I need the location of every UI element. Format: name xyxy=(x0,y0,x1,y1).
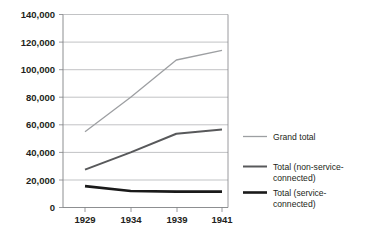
series-total-service-connected xyxy=(85,186,222,192)
legend-label-total-non-service-connected-line2: connected) xyxy=(273,173,316,183)
chart-svg: 140,000 120,000 100,000 80,000 60,000 40… xyxy=(0,0,368,235)
y-tick-label-60000: 60,000 xyxy=(26,119,55,130)
series-total-non-service-connected xyxy=(85,130,222,170)
chart-legend: Grand total Total (non-service- connecte… xyxy=(243,132,344,209)
x-tick-marks xyxy=(85,208,222,213)
series-grand-total xyxy=(85,50,222,131)
legend-label-total-non-service-connected-line1: Total (non-service- xyxy=(273,162,344,172)
series-group xyxy=(85,50,222,191)
x-tick-label-1939: 1939 xyxy=(166,214,187,225)
y-tick-labels: 140,000 120,000 100,000 80,000 60,000 40… xyxy=(21,9,55,213)
y-tick-marks xyxy=(59,15,63,208)
y-tick-label-80000: 80,000 xyxy=(26,92,55,103)
y-tick-label-140000: 140,000 xyxy=(21,9,55,20)
x-tick-label-1941: 1941 xyxy=(211,214,233,225)
x-tick-label-1934: 1934 xyxy=(120,214,142,225)
y-tick-label-120000: 120,000 xyxy=(21,37,55,48)
line-chart: 140,000 120,000 100,000 80,000 60,000 40… xyxy=(0,0,368,235)
x-tick-labels: 1929 1934 1939 1941 xyxy=(74,214,233,225)
x-tick-label-1929: 1929 xyxy=(74,214,95,225)
y-tick-label-100000: 100,000 xyxy=(21,64,55,75)
y-tick-label-40000: 40,000 xyxy=(26,147,55,158)
y-gridlines xyxy=(63,15,228,181)
y-tick-label-20000: 20,000 xyxy=(26,175,55,186)
y-tick-label-0: 0 xyxy=(50,202,55,213)
legend-label-total-service-connected-line1: Total (service- xyxy=(273,188,327,198)
legend-label-total-service-connected-line2: connected) xyxy=(273,199,316,209)
legend-label-grand-total: Grand total xyxy=(273,132,316,142)
